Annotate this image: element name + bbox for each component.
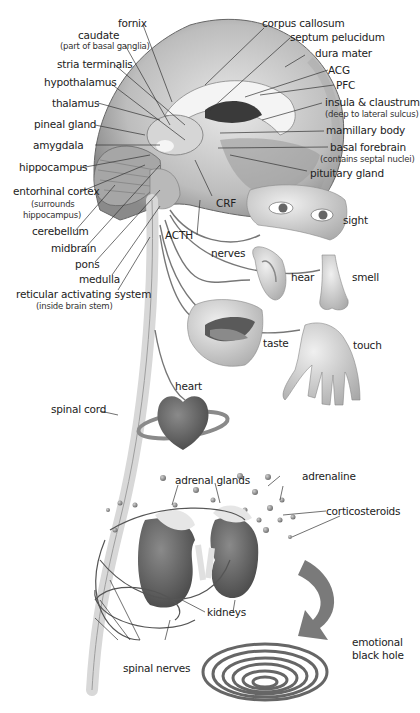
- label-pons: pons: [75, 258, 99, 270]
- label-black-hole: black hole: [352, 649, 404, 661]
- label-hypothalamus: hypothalamus: [44, 76, 116, 88]
- eyes: [247, 185, 347, 240]
- label-caudate: caudate: [78, 29, 119, 41]
- label-thalamus: thalamus: [52, 97, 99, 109]
- label-nerves: nerves: [211, 247, 245, 259]
- label-pituitary-gland: pituitary gland: [310, 167, 384, 179]
- label-hippocampus: hippocampus: [19, 161, 87, 173]
- label-taste: taste: [263, 337, 289, 349]
- label-fornix: fornix: [118, 17, 147, 29]
- label-corticosteroids: corticosteroids: [326, 505, 400, 517]
- label-basal-forebrain: basal forebrain: [330, 141, 406, 153]
- label-adrenal-glands: adrenal glands: [175, 474, 250, 486]
- label-smell: smell: [352, 271, 379, 283]
- ear: [253, 247, 286, 300]
- label-pfc: PFC: [336, 79, 355, 91]
- label-dura-mater: dura mater: [315, 47, 372, 59]
- label-reticular-activating-system: reticular activating system: [16, 288, 151, 300]
- label-cerebellum: cerebellum: [32, 225, 89, 237]
- label-crf: CRF: [216, 197, 236, 209]
- label-amygdala: amygdala: [33, 139, 83, 151]
- label-insula-claustrum: insula & claustrum: [325, 96, 420, 108]
- label-spinal-nerves: spinal nerves: [123, 662, 190, 674]
- label-acth: ACTH: [165, 229, 193, 241]
- label-reticular-note: (inside brain stem): [36, 301, 113, 311]
- label-caudate-note: (part of basal ganglia): [60, 41, 150, 51]
- heart: [137, 396, 229, 450]
- label-basal-forebrain-note: (contains septal nuclei): [320, 154, 415, 164]
- label-mamillary-body: mamillary body: [326, 124, 405, 136]
- label-entorhinal-note-2: hippocampus): [23, 210, 81, 220]
- nose: [320, 255, 349, 310]
- curved-arrow-icon: [298, 560, 334, 640]
- label-kidneys: kidneys: [207, 606, 246, 618]
- label-midbrain: midbrain: [51, 242, 96, 254]
- label-medulla: medulla: [79, 273, 120, 285]
- label-insula-note: (deep to lateral sulcus): [325, 109, 419, 119]
- label-entorhinal-note-1: (surrounds: [31, 199, 75, 209]
- emotional-black-hole-spiral: [203, 644, 327, 700]
- label-adrenaline: adrenaline: [302, 470, 356, 482]
- label-pineal-gland: pineal gland: [34, 118, 96, 130]
- label-hear: hear: [291, 271, 314, 283]
- label-acg: ACG: [328, 64, 350, 76]
- hand: [283, 323, 360, 405]
- label-heart: heart: [175, 380, 202, 392]
- label-spinal-cord: spinal cord: [51, 403, 106, 415]
- label-sight: sight: [343, 214, 368, 226]
- label-septum-pelucidum: septum pelucidum: [290, 31, 385, 43]
- label-stria-terminalis: stria terminalis: [57, 58, 133, 70]
- label-entorhinal-cortex: entorhinal cortex: [13, 185, 99, 197]
- label-corpus-callosum: corpus callosum: [262, 17, 344, 29]
- label-touch: touch: [353, 339, 382, 351]
- label-emotional: emotional: [352, 636, 403, 648]
- mouth: [188, 300, 263, 367]
